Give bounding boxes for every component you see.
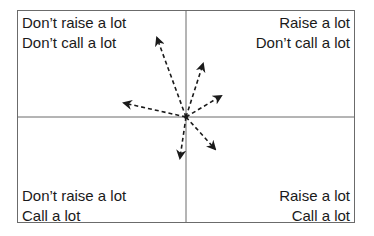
quadrant-bottom-left-label: Don’t raise a lot Call a lot — [22, 186, 126, 226]
origin-point — [184, 115, 188, 119]
top-right-line2: Don’t call a lot — [256, 33, 350, 53]
dashed-arrow — [186, 117, 215, 149]
quadrant-top-left-label: Don’t raise a lot Don’t call a lot — [22, 13, 126, 53]
dashed-arrow — [180, 117, 186, 158]
dashed-arrow — [124, 103, 186, 117]
bottom-left-line1: Don’t raise a lot — [22, 186, 126, 206]
quadrant-bottom-right-label: Raise a lot Call a lot — [279, 186, 350, 226]
bottom-left-line2: Call a lot — [22, 206, 126, 226]
dashed-arrow — [157, 38, 186, 117]
top-left-line2: Don’t call a lot — [22, 33, 126, 53]
dashed-arrow — [186, 96, 221, 117]
quadrant-top-right-label: Raise a lot Don’t call a lot — [256, 13, 350, 53]
bottom-right-line2: Call a lot — [279, 206, 350, 226]
top-right-line1: Raise a lot — [256, 13, 350, 33]
arrow-group — [124, 38, 221, 158]
top-left-line1: Don’t raise a lot — [22, 13, 126, 33]
quadrant-diagram: Don’t raise a lot Don’t call a lot Raise… — [0, 0, 374, 236]
bottom-right-line1: Raise a lot — [279, 186, 350, 206]
